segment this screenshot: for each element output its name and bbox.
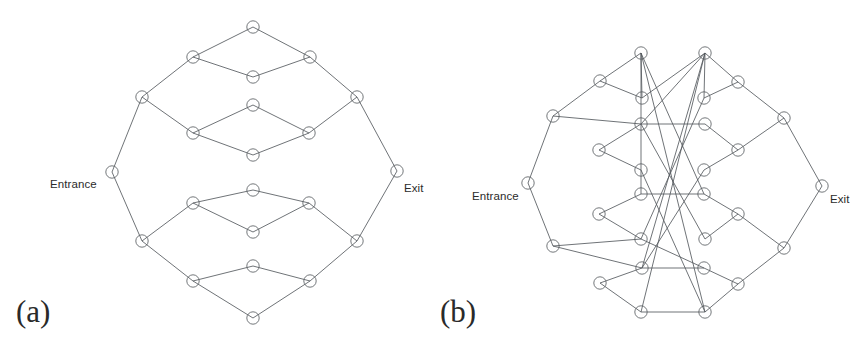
graph-node[interactable] (594, 277, 606, 289)
graph-edge (738, 118, 784, 150)
graph-edge (641, 53, 704, 194)
graph-edge (599, 214, 641, 239)
graph-edge (193, 190, 253, 203)
graph-node[interactable] (778, 242, 790, 254)
graph-node[interactable] (247, 149, 259, 161)
graph-edge (528, 183, 553, 246)
graph-edge (738, 82, 784, 118)
graph-edge (253, 281, 310, 318)
graph-node[interactable] (732, 278, 744, 290)
graph-node[interactable] (635, 188, 647, 200)
graph-edge (641, 53, 705, 124)
graph-node[interactable] (698, 164, 710, 176)
graph-node[interactable] (547, 240, 559, 252)
graph-node[interactable] (635, 47, 647, 59)
graph-node[interactable] (698, 262, 710, 274)
graph-node[interactable] (247, 312, 259, 324)
graph-node[interactable] (136, 235, 148, 247)
graph-node[interactable] (247, 260, 259, 272)
graph-edge (553, 116, 641, 124)
graph-edge (738, 214, 784, 248)
graph-node[interactable] (304, 51, 316, 63)
graph-node[interactable] (635, 306, 647, 318)
panel-caption-b: (b) (440, 294, 476, 329)
figure-container: Entrance Exit (a) Entrance Exit (b) (0, 0, 863, 346)
graph-node[interactable] (303, 127, 315, 139)
graph-edge (193, 203, 253, 232)
graph-edge (784, 118, 822, 186)
graph-edge (309, 97, 357, 133)
graph-node[interactable] (247, 71, 259, 83)
graph-edge (600, 81, 642, 98)
graph-edge (357, 171, 397, 241)
graph-edge (641, 98, 704, 239)
graph-edge (142, 203, 193, 241)
graph-node[interactable] (635, 233, 647, 245)
graph-edge (704, 53, 705, 98)
graph-node[interactable] (699, 118, 711, 130)
graph-node[interactable] (593, 144, 605, 156)
graph-node[interactable] (698, 92, 710, 104)
graph-edge (600, 268, 642, 283)
graph-node[interactable] (732, 208, 744, 220)
graph-edge (253, 266, 310, 281)
graph-node[interactable] (303, 197, 315, 209)
graph-node[interactable] (699, 306, 711, 318)
panel-b-nodes (522, 47, 828, 318)
graph-node[interactable] (635, 118, 647, 130)
graph-edge (193, 281, 253, 318)
graph-node[interactable] (187, 127, 199, 139)
graph-node[interactable] (136, 91, 148, 103)
graph-node[interactable] (732, 76, 744, 88)
graph-edge (528, 116, 553, 183)
graph-edge (253, 57, 310, 77)
graph-edge (112, 97, 142, 172)
graph-node[interactable] (547, 110, 559, 122)
graph-node[interactable] (635, 164, 647, 176)
graph-edge (599, 124, 641, 150)
graph-node[interactable] (247, 99, 259, 111)
graph-edge (253, 190, 309, 203)
graph-node[interactable] (698, 188, 710, 200)
graph-node[interactable] (247, 184, 259, 196)
graph-edge (553, 239, 641, 246)
graph-node[interactable] (699, 233, 711, 245)
graph-edge (253, 105, 309, 133)
graph-edge (738, 248, 784, 284)
graph-node[interactable] (732, 144, 744, 156)
graph-node[interactable] (699, 47, 711, 59)
panel-b-edges (528, 53, 822, 312)
graph-node[interactable] (594, 75, 606, 87)
graph-edge (641, 170, 705, 312)
graph-edge (553, 246, 642, 268)
graph-edge (600, 53, 641, 81)
graph-edge (599, 194, 641, 214)
graph-edge (193, 266, 253, 281)
graph-node[interactable] (593, 208, 605, 220)
graph-edge (193, 27, 253, 57)
graph-node[interactable] (304, 275, 316, 287)
graph-edge (142, 57, 193, 97)
graph-edge (253, 27, 310, 57)
graph-node[interactable] (351, 91, 363, 103)
graph-edge (142, 241, 193, 281)
graph-node[interactable] (187, 51, 199, 63)
graph-node[interactable] (636, 262, 648, 274)
entrance-label-a: Entrance (50, 178, 97, 190)
panel-a-nodes (106, 21, 403, 324)
graph-panel-b: Entrance Exit (b) (432, 0, 863, 346)
graph-node[interactable] (778, 112, 790, 124)
graph-node[interactable] (247, 21, 259, 33)
entrance-label-b: Entrance (472, 190, 519, 202)
graph-edge (112, 172, 142, 241)
graph-edge (641, 239, 704, 268)
graph-node[interactable] (187, 275, 199, 287)
graph-node[interactable] (351, 235, 363, 247)
graph-node[interactable] (187, 197, 199, 209)
graph-edge (553, 81, 600, 116)
graph-edge (253, 203, 309, 232)
graph-node[interactable] (247, 226, 259, 238)
graph-panel-a: Entrance Exit (a) (0, 0, 432, 346)
graph-edge (357, 97, 397, 171)
graph-node[interactable] (636, 92, 648, 104)
